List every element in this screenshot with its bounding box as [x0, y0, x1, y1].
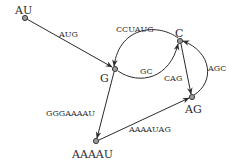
node-g: [112, 66, 117, 71]
edge-label-ccuaug: CCUAUG: [116, 25, 154, 34]
edge-label-cag: CAG: [164, 74, 182, 83]
edge-label-agc: AGC: [207, 64, 226, 73]
node-aaaau: [93, 138, 98, 143]
edge-c-g-ccuaug: [114, 30, 178, 66]
edge-label-gggaaaau: GGGAAAAU: [46, 109, 95, 118]
node-label-au: AU: [14, 4, 32, 17]
node-label-ag: AG: [184, 103, 202, 116]
edge-c-ag-cag: [181, 44, 191, 94]
graph-canvas: AU G C AG AAAAU AUG CCUAUG GC CAG AGC GG…: [0, 0, 240, 166]
node-ag: [189, 94, 194, 99]
edge-label-aug: AUG: [58, 30, 78, 39]
edge-au-g: [25, 18, 112, 67]
edge-label-gc: GC: [140, 67, 153, 76]
node-label-g: G: [100, 72, 109, 85]
node-label-aaaau: AAAAU: [71, 148, 113, 161]
node-label-c: C: [175, 27, 183, 40]
edge-label-aaaauag: AAAAUAG: [128, 125, 171, 134]
edge-ag-c-agc: [183, 41, 208, 95]
